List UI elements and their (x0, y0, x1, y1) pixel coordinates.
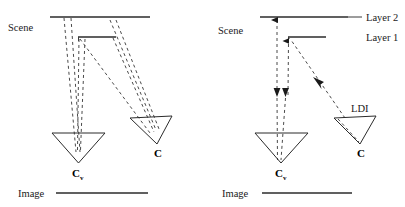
left-image-label: Image (18, 188, 45, 199)
left-virtual-camera-frustum (52, 133, 105, 163)
diagram-canvas: Scene C v C Image (0, 0, 405, 207)
right-ray-down-to-cv-a (277, 98, 278, 160)
right-layer1-label: Layer 1 (366, 32, 398, 43)
right-image-label: Image (222, 188, 249, 199)
right-cv-subscript: v (283, 174, 287, 182)
right-ldi-ray-arrowhead (313, 77, 324, 89)
right-downward-arrowhead-a (274, 88, 281, 97)
right-camera-axis-dash (338, 119, 359, 142)
right-real-camera-frustum (334, 116, 376, 144)
right-ldi-ray (291, 40, 345, 118)
left-cv-label: C (72, 167, 80, 179)
left-ray-far-to-c-a (110, 20, 156, 130)
left-ray-near-to-c-a (80, 39, 150, 133)
left-scene-label: Scene (8, 22, 33, 33)
left-ray-far-to-cv-a (64, 18, 76, 152)
right-c-label: C (357, 147, 365, 159)
left-real-camera-frustum (130, 116, 172, 144)
right-ldi-label: LDI (351, 103, 369, 114)
right-ray-down-to-cv-b (281, 98, 286, 160)
right-cv-label: C (275, 167, 283, 179)
right-scene-label: Scene (218, 25, 243, 36)
right-diagram: Scene Layer 2 Layer 1 LDI C v C Image (218, 12, 398, 199)
right-ray-to-layer1 (288, 41, 289, 95)
figure-root: Scene C v C Image (0, 0, 405, 207)
right-layer2-label: Layer 2 (366, 12, 398, 23)
left-cv-subscript: v (80, 174, 84, 182)
left-diagram: Scene C v C Image (8, 17, 172, 199)
left-c-label: C (154, 147, 162, 159)
left-ray-far-to-c-b (116, 20, 159, 129)
